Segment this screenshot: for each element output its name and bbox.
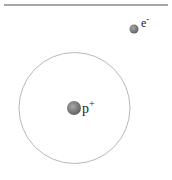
electron-label: e-: [141, 14, 149, 30]
diagram-canvas: p+ e-: [0, 0, 172, 180]
hydrogen-atom-diagram: p+ e-: [0, 0, 172, 180]
electron-icon: [130, 25, 139, 34]
proton-label: p+: [82, 98, 95, 116]
proton-icon: [67, 101, 81, 115]
